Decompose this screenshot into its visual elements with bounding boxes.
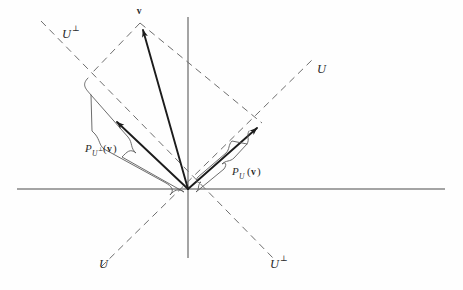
vector-projection-canvas: v U ⊥ U U U ⊥ P U ⊥ ( v ) P U ( v	[0, 0, 463, 290]
vector-v-arrow	[143, 30, 188, 189]
label-vector-v: v	[137, 6, 142, 16]
label-proj-u-close-paren: )	[257, 165, 261, 178]
label-projection-onto-u: P U ( v )	[231, 165, 261, 181]
label-subspace-u-right: U	[317, 62, 327, 76]
subspace-line-u-perp	[41, 21, 274, 259]
label-proj-u-arg-v: v	[251, 167, 256, 177]
label-proj-u-perp-p: P	[84, 142, 92, 154]
label-proj-u-p: P	[231, 165, 239, 177]
vector-projection-onto-u-perp-arrow	[117, 122, 188, 189]
vector-projection-onto-u-arrow	[188, 128, 257, 189]
label-proj-u-perp-close-paren: )	[113, 142, 117, 155]
label-subspace-u-perp-top-left: U ⊥	[62, 24, 80, 41]
label-subspace-u-perp-bottom-right: U ⊥	[270, 254, 288, 271]
vector-projection-figure: v U ⊥ U U U ⊥ P U ⊥ ( v ) P U ( v	[0, 0, 463, 290]
guide-line-v-to-proj-u-perp	[92, 23, 140, 73]
label-u-perp-bottom-right-base: U	[270, 257, 280, 271]
brace-proj-u	[196, 131, 249, 192]
label-u-perp-top-left-base: U	[62, 27, 72, 41]
guide-line-v-to-proj-u	[140, 23, 262, 123]
label-u-perp-top-left-sup: ⊥	[72, 24, 80, 33]
brace-proj-u-perp	[85, 78, 184, 195]
label-proj-u-perp-arg-v: v	[107, 144, 112, 154]
label-subspace-u-bottom-left: U	[99, 257, 109, 271]
label-u-perp-bottom-right-sup: ⊥	[280, 254, 288, 263]
label-proj-u-sub-u: U	[239, 172, 245, 181]
